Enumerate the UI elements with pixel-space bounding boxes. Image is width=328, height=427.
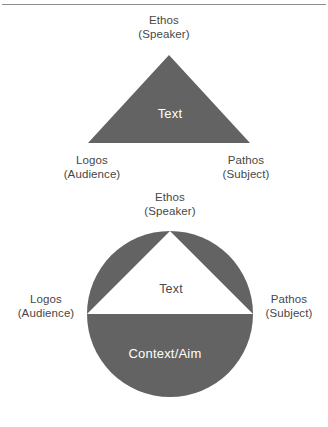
circle-left-label-subtitle: (Audience) (4, 307, 88, 321)
top-divider-rule (2, 4, 326, 5)
triangle-right-label-pathos: Pathos (Subject) (196, 154, 296, 181)
triangle-right-label-subtitle: (Subject) (196, 168, 296, 182)
circle-left-label-title: Logos (30, 293, 62, 305)
diagram-rhetorical-triangle-in-circle: Ethos (Speaker) Logos (Audience) Pathos … (0, 190, 328, 427)
circle-apex-label-ethos: Ethos (Speaker) (120, 191, 220, 218)
circle-apex-label-title: Ethos (155, 191, 185, 203)
diagram-rhetorical-triangle: Ethos (Speaker) Logos (Audience) Pathos … (0, 8, 328, 190)
circle-lower-label-context-aim: Context/Aim (105, 346, 225, 361)
figure-frame: Ethos (Speaker) Logos (Audience) Pathos … (0, 0, 328, 427)
triangle-apex-label-title: Ethos (149, 14, 179, 26)
circle-right-label-pathos: Pathos (Subject) (250, 293, 328, 320)
triangle-apex-label-subtitle: (Speaker) (114, 28, 214, 42)
circle-left-label-logos: Logos (Audience) (4, 293, 88, 320)
circle-apex-label-subtitle: (Speaker) (120, 205, 220, 219)
triangle-left-label-subtitle: (Audience) (42, 168, 142, 182)
triangle-left-label-title: Logos (76, 154, 108, 166)
triangle-apex-label-ethos: Ethos (Speaker) (114, 14, 214, 41)
circle-center-label-text: Text (121, 282, 221, 296)
triangle-center-label-text: Text (120, 106, 220, 121)
triangle-right-label-title: Pathos (228, 154, 264, 166)
circle-right-label-title: Pathos (271, 293, 307, 305)
triangle-left-label-logos: Logos (Audience) (42, 154, 142, 181)
circle-right-label-subtitle: (Subject) (250, 307, 328, 321)
